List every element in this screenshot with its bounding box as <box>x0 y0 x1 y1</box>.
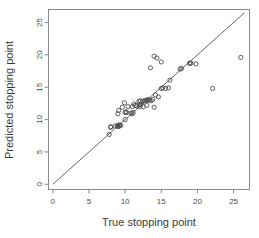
data-point <box>152 105 156 109</box>
data-point <box>194 62 198 66</box>
y-tick-label: 0 <box>35 182 44 187</box>
x-tick-label: 15 <box>157 197 166 206</box>
scatter-plot-figure: 0510152025 0510152025 True stopping poin… <box>0 0 259 238</box>
y-tick-label: 25 <box>35 17 44 26</box>
data-point <box>126 105 130 109</box>
x-tick-label: 20 <box>193 197 202 206</box>
y-tick-label: 15 <box>35 82 44 91</box>
x-tick-label: 25 <box>229 197 238 206</box>
y-axis-title: Predicted stopping point <box>3 41 15 159</box>
x-axis-title: True stopping point <box>102 216 196 228</box>
plot-canvas: 0510152025 0510152025 True stopping poin… <box>0 0 259 238</box>
data-point <box>122 101 126 105</box>
data-point <box>211 86 215 90</box>
data-point <box>159 60 163 64</box>
y-axis-ticks: 0510152025 <box>35 17 49 186</box>
x-tick-label: 0 <box>51 197 56 206</box>
data-point <box>107 132 111 136</box>
y-tick-label: 20 <box>35 50 44 59</box>
data-point <box>239 55 243 59</box>
x-axis-ticks: 0510152025 <box>51 190 239 206</box>
data-point <box>164 86 168 90</box>
y-tick-label: 5 <box>35 149 44 154</box>
x-tick-label: 5 <box>87 197 92 206</box>
data-point <box>148 66 152 70</box>
y-tick-label: 10 <box>35 115 44 124</box>
data-point <box>120 105 124 109</box>
data-point <box>166 86 170 90</box>
data-point <box>168 78 172 82</box>
x-tick-label: 10 <box>121 197 130 206</box>
data-points <box>107 54 243 137</box>
